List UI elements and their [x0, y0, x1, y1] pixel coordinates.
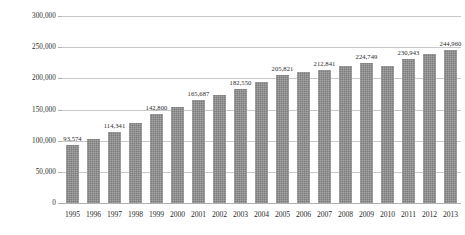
x-tick-label: 2008: [335, 208, 356, 222]
bar-value-label: 93,574: [63, 135, 81, 143]
bar-slot: 230,943: [398, 16, 419, 203]
bar[interactable]: [402, 59, 415, 203]
x-tick-label: 2004: [251, 208, 272, 222]
x-tick-label: 2001: [188, 208, 209, 222]
bar-slot: [209, 16, 230, 203]
bar-slot: 93,574: [62, 16, 83, 203]
x-tick-label: 2000: [167, 208, 188, 222]
bar-value-label: 212,841: [314, 60, 336, 68]
y-tick-label: 50,000: [0, 168, 56, 176]
bar[interactable]: [255, 82, 268, 203]
bar[interactable]: [171, 107, 184, 203]
y-tick-label: 200,000: [0, 74, 56, 82]
x-tick-label: 2013: [440, 208, 461, 222]
x-tick-label: 1997: [104, 208, 125, 222]
bar[interactable]: [150, 114, 163, 203]
bar[interactable]: [87, 139, 100, 204]
bar[interactable]: [276, 75, 289, 203]
bar-slot: 212,841: [314, 16, 335, 203]
bar-value-label: 244,960: [440, 40, 462, 48]
x-tick-label: 1998: [125, 208, 146, 222]
bar-value-label: 142,800: [146, 104, 168, 112]
bar-value-label: 165,687: [188, 90, 210, 98]
bar-slot: 205,821: [272, 16, 293, 203]
bar-chart: 050,000100,000150,000200,000250,000300,0…: [0, 0, 465, 235]
x-tick-label: 2002: [209, 208, 230, 222]
bar[interactable]: [339, 66, 352, 203]
bar-slot: [377, 16, 398, 203]
bar[interactable]: [234, 89, 247, 203]
y-tick-label: 250,000: [0, 43, 56, 51]
x-tick-label: 2005: [272, 208, 293, 222]
x-tick-label: 2009: [356, 208, 377, 222]
bar-value-label: 230,943: [398, 49, 420, 57]
bar-slot: [335, 16, 356, 203]
x-tick-label: 2006: [293, 208, 314, 222]
bar[interactable]: [66, 145, 79, 203]
bar-slot: [125, 16, 146, 203]
x-tick-label: 2010: [377, 208, 398, 222]
x-tick-label: 2012: [419, 208, 440, 222]
gridline: [62, 203, 461, 204]
x-tick-label: 2011: [398, 208, 419, 222]
y-tick-label: 0: [0, 199, 56, 207]
bar[interactable]: [213, 95, 226, 203]
bar-slot: [419, 16, 440, 203]
y-tick-label: 300,000: [0, 12, 56, 20]
bar-slot: [167, 16, 188, 203]
x-tick-label: 2003: [230, 208, 251, 222]
bar-slot: [293, 16, 314, 203]
bar-slot: 114,341: [104, 16, 125, 203]
bar-value-label: 114,341: [104, 122, 126, 130]
bars-layer: 93,574114,341142,800165,687182,550205,82…: [62, 16, 461, 203]
x-axis: 1995199619971998199920002001200220032004…: [62, 208, 461, 224]
bar-slot: 224,749: [356, 16, 377, 203]
bar-value-label: 182,550: [230, 79, 252, 87]
bar-slot: [83, 16, 104, 203]
bar-value-label: 224,749: [356, 53, 378, 61]
bar[interactable]: [444, 50, 457, 203]
bar[interactable]: [423, 54, 436, 203]
x-tick-label: 2007: [314, 208, 335, 222]
bar-slot: 182,550: [230, 16, 251, 203]
bar[interactable]: [129, 123, 142, 203]
bar[interactable]: [360, 63, 373, 203]
x-tick-label: 1999: [146, 208, 167, 222]
y-tick-label: 100,000: [0, 137, 56, 145]
bar-slot: 165,687: [188, 16, 209, 203]
bar[interactable]: [318, 70, 331, 203]
x-tick-label: 1995: [62, 208, 83, 222]
bar[interactable]: [381, 66, 394, 203]
bar-value-label: 205,821: [272, 65, 294, 73]
bar[interactable]: [108, 132, 121, 203]
x-tick-label: 1996: [83, 208, 104, 222]
bar-slot: 244,960: [440, 16, 461, 203]
bar-slot: [251, 16, 272, 203]
bar[interactable]: [192, 100, 205, 203]
bar-slot: 142,800: [146, 16, 167, 203]
bar[interactable]: [297, 72, 310, 203]
y-tick-label: 150,000: [0, 106, 56, 114]
